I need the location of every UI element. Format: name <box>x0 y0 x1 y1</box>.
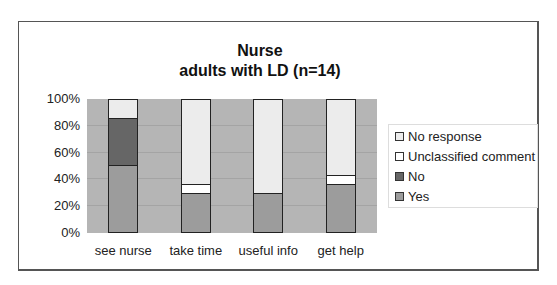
legend-label: No response <box>408 129 482 144</box>
y-tick-label: 20% <box>40 198 80 213</box>
bar-take-time <box>181 99 211 233</box>
x-tick-label: see nurse <box>83 243 163 258</box>
y-tick-label: 100% <box>40 91 80 106</box>
bar-useful-info <box>253 99 283 233</box>
bar-see-nurse <box>108 99 138 233</box>
legend-item: No response <box>395 129 482 144</box>
x-tick-label: useful info <box>228 243 308 258</box>
legend: No responseUnclassified commentNoYes <box>388 124 538 208</box>
legend-swatch-icon <box>395 172 404 181</box>
segment-yes <box>182 194 210 232</box>
legend-label: Yes <box>408 189 429 204</box>
legend-item: Yes <box>395 189 429 204</box>
x-tick-label: get help <box>301 243 381 258</box>
segment-yes <box>254 194 282 232</box>
x-tick-label: take time <box>156 243 236 258</box>
y-tick-label: 60% <box>40 145 80 160</box>
segment-yes <box>327 185 355 232</box>
plot-area <box>87 99 377 233</box>
legend-swatch-icon <box>395 132 404 141</box>
chart-title: Nurse <box>1 42 519 60</box>
chart-subtitle: adults with LD (n=14) <box>1 62 519 80</box>
legend-swatch-icon <box>395 152 404 161</box>
segment-no-response <box>327 100 355 175</box>
segment-yes <box>109 166 137 232</box>
segment-no-response <box>254 100 282 194</box>
bar-get-help <box>326 99 356 233</box>
segment-unclassified-comment <box>182 185 210 194</box>
segment-no-response <box>182 100 210 185</box>
y-tick-label: 40% <box>40 171 80 186</box>
segment-unclassified-comment <box>327 176 355 185</box>
legend-item: Unclassified comment <box>395 149 535 164</box>
legend-item: No <box>395 169 425 184</box>
legend-swatch-icon <box>395 192 404 201</box>
y-tick-label: 80% <box>40 118 80 133</box>
y-tick-label: 0% <box>40 225 80 240</box>
legend-label: No <box>408 169 425 184</box>
legend-label: Unclassified comment <box>408 149 535 164</box>
segment-no <box>109 119 137 166</box>
segment-no-response <box>109 100 137 119</box>
